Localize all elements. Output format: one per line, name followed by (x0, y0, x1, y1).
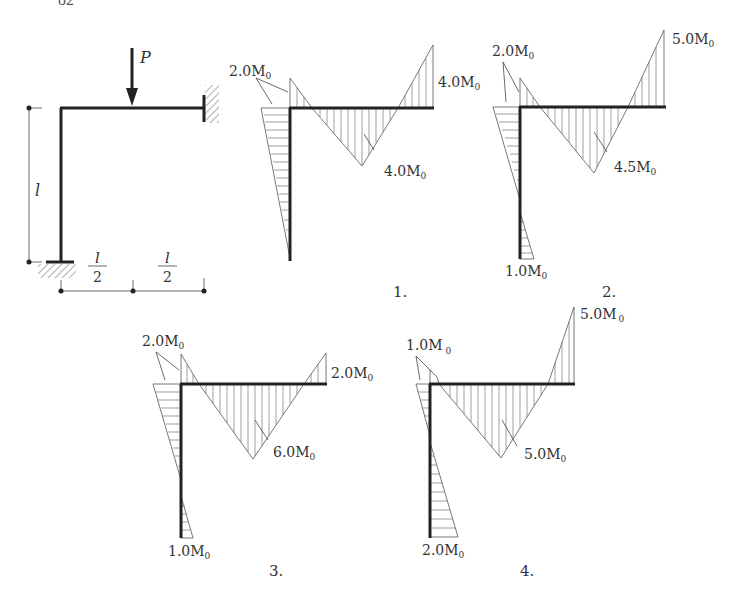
option-1-midspan-label: 4.0M0 (384, 163, 427, 181)
option-3-right-end-label: 2.0M0 (331, 365, 374, 383)
option-4-right-end-label: 5.0M0 (580, 306, 625, 324)
option-2-corner-label: 2.0M0 (492, 43, 535, 61)
option-2-diagram (493, 30, 666, 259)
svg-text:2: 2 (163, 269, 172, 285)
svg-text:l: l (165, 249, 170, 267)
option-4-base-label: 2.0M0 (422, 542, 465, 560)
span-label-left: l 2 (88, 249, 107, 285)
option-4-corner-label: 1.0M0 (406, 337, 452, 356)
problem-frame: P l l 2 l 2 (27, 48, 220, 294)
option-4-number: 4. (520, 562, 534, 580)
option-2-base-label: 1.0M0 (505, 263, 548, 281)
option-2-right-end-label: 5.0M0 (672, 31, 715, 49)
option-3-base-label: 1.0M0 (168, 543, 211, 561)
option-2-number: 2. (602, 283, 616, 301)
svg-text:2: 2 (93, 269, 102, 285)
option-2-midspan-label: 4.5M0 (614, 159, 657, 177)
option-1-number: 1. (393, 283, 407, 301)
option-1-diagram (256, 45, 434, 261)
column-height-label: l (35, 181, 40, 200)
option-1-right-end-label: 4.0M0 (438, 74, 481, 92)
load-label: P (139, 48, 151, 67)
option-4-midspan-label: 5.0M0 (524, 446, 567, 464)
option-1-corner-label: 2.0M0 (229, 63, 272, 81)
svg-text:l: l (95, 249, 100, 267)
option-3-midspan-label: 6.0M0 (273, 444, 316, 462)
span-label-right: l 2 (158, 249, 177, 285)
span-dimension (59, 278, 207, 294)
option-3-corner-label: 2.0M0 (142, 333, 185, 351)
fixed-support-bottom (38, 262, 76, 278)
load-arrow-icon (126, 48, 138, 106)
option-3-number: 3. (269, 562, 283, 580)
fixed-support-right (204, 85, 219, 123)
